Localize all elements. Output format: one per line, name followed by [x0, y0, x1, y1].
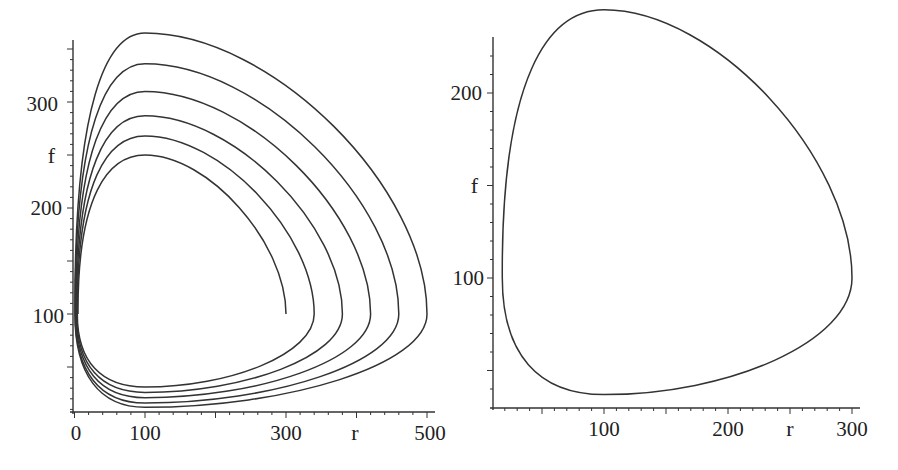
right-limit-cycle: [502, 10, 852, 395]
left-trajectories: [75, 33, 427, 407]
figure: 300 f 200 100 0 100 300 r 500 200 f 100 …: [0, 0, 898, 470]
right-y-tick-100: 100: [453, 266, 485, 290]
left-y-tick-300: 300: [27, 92, 59, 116]
trajectory-curve: [75, 64, 399, 403]
left-x-tick-0: 0: [71, 421, 82, 445]
left-plot: 300 f 200 100 0 100 300 r 500: [27, 33, 446, 445]
trajectory-curve: [78, 155, 286, 314]
left-x-tick-100: 100: [129, 421, 161, 445]
left-y-ticks: [67, 49, 73, 409]
right-x-tick-100: 100: [588, 417, 620, 441]
trajectory-curve: [76, 91, 371, 397]
trajectory-curve: [77, 136, 314, 387]
right-x-axis-label: r: [786, 416, 794, 441]
right-y-tick-200: 200: [451, 81, 483, 105]
left-x-tick-500: 500: [414, 421, 446, 445]
left-y-tick-100: 100: [33, 304, 65, 328]
left-y-tick-200: 200: [31, 196, 63, 220]
right-y-axis-label: f: [471, 173, 479, 198]
right-x-tick-200: 200: [712, 417, 744, 441]
right-x-tick-300: 300: [836, 417, 868, 441]
right-plot: 200 f 100 100 200 r 300: [451, 10, 868, 441]
left-x-tick-300: 300: [270, 421, 302, 445]
left-x-axis-label: r: [351, 420, 359, 445]
left-x-ticks: [75, 412, 428, 418]
right-x-ticks: [505, 408, 852, 414]
limit-cycle-curve: [502, 10, 852, 395]
left-y-axis-label: f: [48, 143, 56, 168]
right-y-ticks: [487, 56, 493, 389]
trajectory-curve: [77, 116, 343, 393]
